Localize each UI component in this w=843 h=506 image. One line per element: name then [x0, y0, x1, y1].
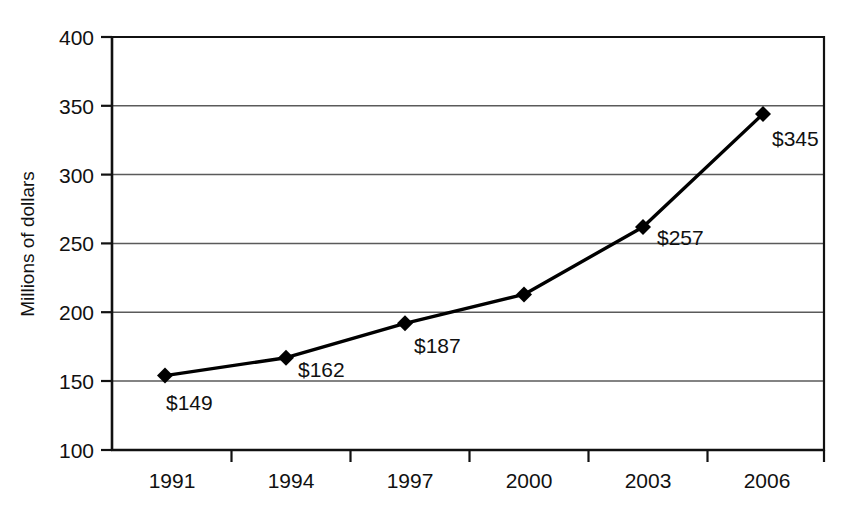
y-tick-marks [101, 37, 112, 450]
x-tick-label-1991: 1991 [149, 469, 196, 492]
x-tick-labels: 1991 1994 1997 2000 2003 2006 [149, 469, 791, 492]
data-label-1994: $162 [298, 358, 345, 381]
x-tick-marks [232, 450, 825, 462]
y-axis-title: Millions of dollars [17, 171, 38, 317]
y-tick-label-350: 350 [59, 95, 94, 118]
y-tick-label-150: 150 [59, 370, 94, 393]
y-tick-label-250: 250 [59, 232, 94, 255]
y-tick-label-300: 300 [59, 164, 94, 187]
line-chart: 400 350 300 250 200 150 100 1991 1994 19… [0, 0, 843, 506]
data-label-1991: $149 [166, 391, 213, 414]
data-label-2006: $345 [772, 127, 819, 150]
y-tick-label-400: 400 [59, 26, 94, 49]
y-tick-labels: 400 350 300 250 200 150 100 [59, 26, 94, 462]
data-label-1997: $187 [414, 334, 461, 357]
chart-page: 400 350 300 250 200 150 100 1991 1994 19… [0, 0, 843, 506]
x-tick-label-1997: 1997 [387, 469, 434, 492]
x-tick-label-2006: 2006 [744, 469, 791, 492]
y-tick-label-100: 100 [59, 439, 94, 462]
y-tick-label-200: 200 [59, 301, 94, 324]
data-label-2003: $257 [657, 226, 704, 249]
x-tick-label-2003: 2003 [625, 469, 672, 492]
x-tick-label-1994: 1994 [268, 469, 315, 492]
x-tick-label-2000: 2000 [506, 469, 553, 492]
